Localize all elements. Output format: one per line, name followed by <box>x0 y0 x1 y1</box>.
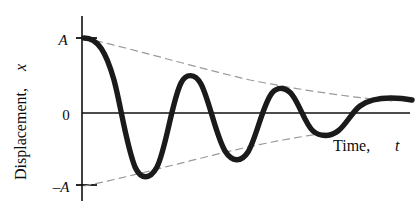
damped-oscillation-figure: Displacement, x A 0 –A Time, t <box>0 0 419 211</box>
x-axis-label-symbol: t <box>395 137 400 154</box>
y-tick-label-zero: 0 <box>62 107 70 123</box>
y-tick-label-a: A <box>57 32 68 48</box>
x-axis-label-text: Time, <box>333 137 370 154</box>
y-tick-label-neg-a: –A <box>52 179 71 195</box>
y-axis-label-symbol: x <box>12 64 29 72</box>
y-axis-label-text: Displacement, <box>12 88 30 180</box>
